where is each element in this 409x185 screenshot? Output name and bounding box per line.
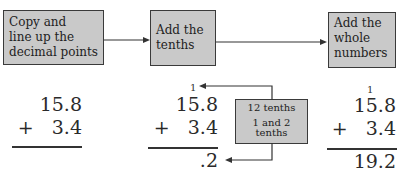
- problem-add-whole: 15.8 + 3.4: [320, 94, 396, 140]
- arrow-left-icon: [222, 143, 274, 165]
- addend-bottom: + 3.4: [10, 116, 82, 139]
- note-line: 12 tenths: [236, 103, 307, 113]
- step-label-line: numbers: [334, 46, 390, 61]
- addend-bottom: + 3.4: [320, 117, 396, 140]
- partial-sum: .2: [170, 149, 218, 172]
- arrow-right-icon: [104, 35, 152, 45]
- step-box-copy-line-up: Copy and line up the decimal points: [3, 10, 104, 65]
- step-label-line: Copy and: [9, 15, 98, 30]
- step-label-line: Add the: [156, 23, 210, 38]
- step-label-line: line up the: [9, 30, 98, 45]
- arrow-right-icon: [216, 37, 330, 47]
- arrow-left-icon: [196, 80, 274, 102]
- step-box-add-tenths: Add the tenths: [150, 10, 216, 66]
- step-label-line: whole: [334, 31, 390, 46]
- addend-bottom: + 3.4: [144, 116, 218, 139]
- addend-top: 15.8: [10, 93, 82, 116]
- step-box-add-whole-numbers: Add the whole numbers: [328, 12, 396, 68]
- final-sum: 19.2: [330, 150, 396, 173]
- problem-copy: 15.8 + 3.4: [10, 93, 82, 139]
- note-line: tenths: [236, 128, 307, 138]
- carry-note-box: 12 tenths 1 and 2 tenths: [235, 99, 308, 144]
- addend-top: 15.8: [320, 94, 396, 117]
- step-label-line: decimal points: [9, 45, 98, 60]
- step-label-line: tenths: [156, 38, 210, 53]
- step-label-line: Add the: [334, 16, 390, 31]
- sum-rule: [12, 146, 82, 148]
